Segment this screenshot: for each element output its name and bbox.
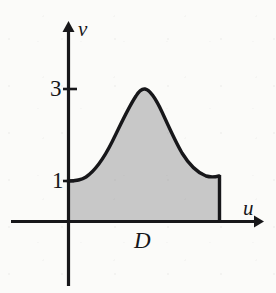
u-axis-label: u [243, 198, 254, 219]
figure-region-d: v u D 3 1 [0, 0, 276, 293]
v-axis-tick-label-3: 3 [50, 77, 62, 100]
v-axis-arrowhead [63, 21, 75, 32]
region-d-label: D [134, 229, 151, 252]
v-axis-tick-label-1: 1 [52, 169, 64, 192]
region-d-fill [68, 89, 219, 221]
v-axis-label: v [78, 19, 87, 40]
u-axis-arrowhead [254, 216, 264, 228]
